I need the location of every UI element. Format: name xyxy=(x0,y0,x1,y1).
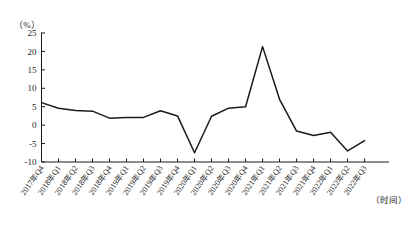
svg-text:0: 0 xyxy=(32,120,37,130)
line-chart-plot: 2520151050-5-102017年Q42018年Q12018年Q22018… xyxy=(0,0,411,228)
svg-text:10: 10 xyxy=(28,83,38,93)
svg-text:-5: -5 xyxy=(29,139,37,149)
svg-text:15: 15 xyxy=(28,65,38,75)
svg-text:-10: -10 xyxy=(25,157,37,167)
svg-text:5: 5 xyxy=(32,102,37,112)
svg-text:25: 25 xyxy=(28,28,38,38)
svg-text:20: 20 xyxy=(28,47,38,57)
x-axis-time-label: （时间） xyxy=(371,193,407,205)
chart-root: （%） 2520151050-5-102017年Q42018年Q12018年Q2… xyxy=(0,0,411,228)
